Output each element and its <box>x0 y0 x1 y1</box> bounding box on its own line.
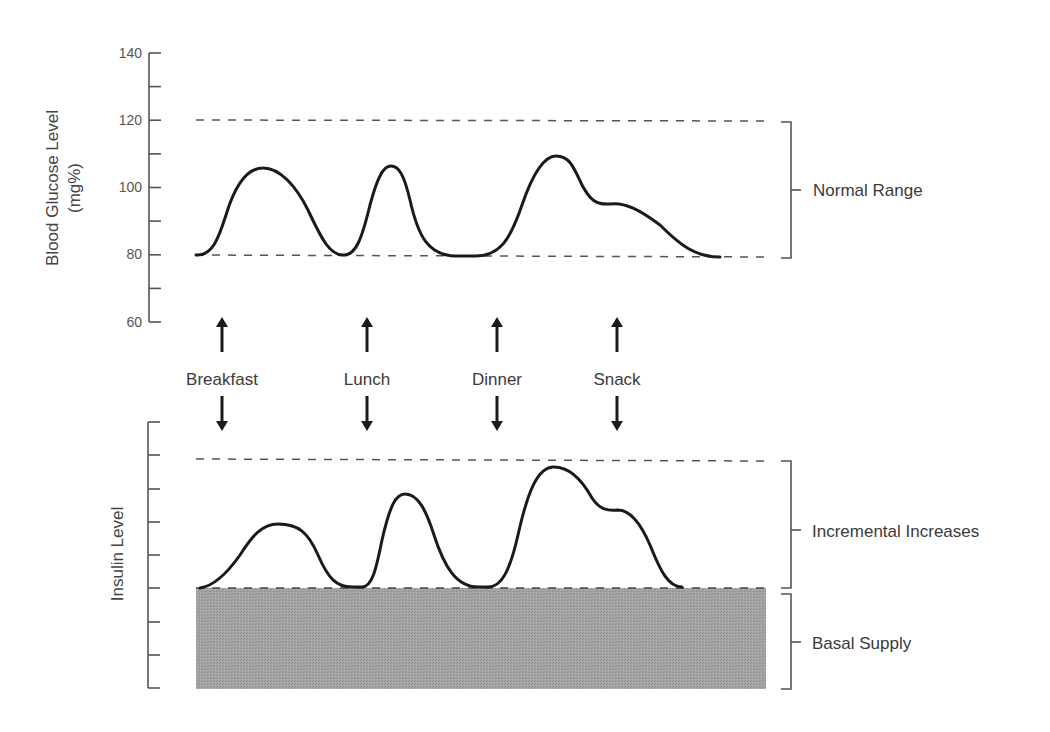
meal-label-breakfast: Breakfast <box>186 370 258 389</box>
insulin-axis-title: Insulin Level <box>108 507 127 602</box>
basal-supply-area <box>196 588 766 689</box>
glucose-panel: 140 120 100 80 60 Blood Glucose Level (m… <box>43 45 923 330</box>
basal-supply-bracket <box>781 594 801 689</box>
glucose-curve <box>196 156 720 257</box>
tick-label-140: 140 <box>119 45 143 61</box>
insulin-upper-dashed-line <box>196 459 766 461</box>
tick-label-120: 120 <box>119 112 143 128</box>
tick-label-60: 60 <box>126 314 142 330</box>
meal-label-dinner: Dinner <box>472 370 522 389</box>
insulin-curve <box>200 467 682 588</box>
meal-dinner: Dinner <box>472 322 522 426</box>
meal-label-snack: Snack <box>593 370 641 389</box>
insulin-y-axis <box>148 422 160 688</box>
glucose-axis-title: Blood Glucose Level (mg%) <box>43 110 84 266</box>
glucose-axis-title-line2: (mg%) <box>65 163 84 213</box>
tick-label-80: 80 <box>126 246 142 262</box>
normal-range-upper-line <box>196 120 768 121</box>
incremental-increases-label: Incremental Increases <box>812 522 979 541</box>
normal-range-label: Normal Range <box>813 181 923 200</box>
meal-breakfast: Breakfast <box>186 322 258 426</box>
normal-range-bracket <box>781 122 801 258</box>
glucose-y-axis <box>149 53 161 322</box>
glucose-insulin-diagram: 140 120 100 80 60 Blood Glucose Level (m… <box>0 0 1050 732</box>
basal-supply-label: Basal Supply <box>812 634 912 653</box>
meal-snack: Snack <box>593 322 641 426</box>
meal-label-lunch: Lunch <box>344 370 390 389</box>
incremental-increases-bracket <box>781 461 801 588</box>
glucose-tick-labels: 140 120 100 80 60 <box>119 45 143 330</box>
insulin-panel: Insulin Level Incremental Increases Basa… <box>108 422 979 689</box>
glucose-axis-title-line1: Blood Glucose Level <box>43 110 62 266</box>
meal-markers: Breakfast Lunch Dinner Snack <box>186 322 641 426</box>
tick-label-100: 100 <box>119 179 143 195</box>
meal-lunch: Lunch <box>344 322 390 426</box>
